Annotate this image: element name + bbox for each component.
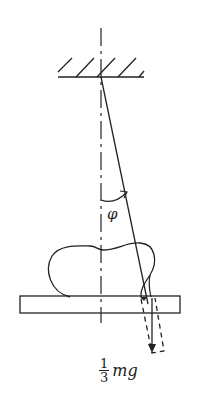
angle-arc: [101, 193, 126, 201]
body-shape-crossing: [149, 275, 151, 297]
angle-label: φ: [107, 205, 118, 223]
force-label: 1 3 mg: [99, 357, 138, 384]
plate: [20, 296, 180, 313]
fraction: 1 3: [99, 357, 109, 384]
force-arrowhead: [148, 344, 156, 353]
diagram-canvas: [0, 0, 199, 404]
fraction-denominator: 3: [100, 371, 108, 384]
fraction-numerator: 1: [99, 357, 109, 371]
force-quantity: mg: [112, 361, 137, 380]
string-line: [101, 77, 148, 304]
